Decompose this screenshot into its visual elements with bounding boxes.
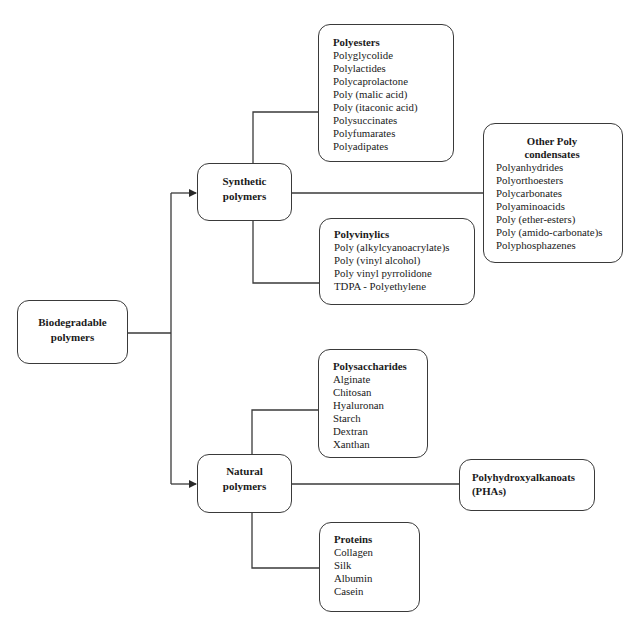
node-label-line1: Biodegradable [38,315,106,330]
list-item: Polycarbonates [496,187,622,200]
list-item: Polysuccinates [333,114,453,127]
node-title: Polyvinylics [334,228,474,241]
list-item: Polyadipates [333,140,453,153]
list-item: Albumin [334,572,419,585]
node-title-line1: Polyhydroxyalkanoats [472,470,594,484]
node-title-line2: condensates [496,148,622,161]
list-item: Polycaprolactone [333,75,453,88]
list-item: Polyglycolide [333,49,453,62]
list-item: Poly (itaconic acid) [333,101,453,114]
list-item: Polyphosphazenes [496,239,622,252]
node-title-line1: Other Poly [496,135,622,148]
list-item: Poly (malic acid) [333,88,453,101]
synthetic-polymers-node: Synthetic polymers [197,163,292,221]
other-poly-condensates-node: Other Poly condensates Polyanhydrides Po… [483,123,623,263]
node-title: Proteins [334,533,419,546]
node-label-line2: polymers [51,330,94,345]
list-item: Silk [334,559,419,572]
list-item: Casein [334,585,419,598]
list-item: Polylactides [333,62,453,75]
natural-polymers-node: Natural polymers [197,454,292,513]
list-item: Poly (amido-carbonate)s [496,226,622,239]
list-item: Alginate [333,373,427,386]
list-item: Poly (ether-esters) [496,213,622,226]
node-label-line1: Synthetic [223,174,267,189]
list-item: Xanthan [333,438,427,451]
node-title: Polyesters [333,36,453,49]
polyesters-node: Polyesters Polyglycolide Polylactides Po… [318,24,454,162]
list-item: Polyaminoacids [496,200,622,213]
node-label-line2: polymers [223,479,266,494]
biodegradable-polymers-node: Biodegradable polymers [17,300,128,364]
list-item: Polyfumarates [333,127,453,140]
list-item: Chitosan [333,386,427,399]
node-title-line2: (PHAs) [472,484,594,498]
list-item: Polyanhydrides [496,161,622,174]
list-item: Hyaluronan [333,399,427,412]
polysaccharides-node: Polysaccharides Alginate Chitosan Hyalur… [318,349,428,458]
list-item: Collagen [334,546,419,559]
list-item: Starch [333,412,427,425]
list-item: Poly vinyl pyrrolidone [334,267,474,280]
list-item: Poly (vinyl alcohol) [334,254,474,267]
node-label-line1: Natural [226,464,263,479]
node-title: Polysaccharides [333,360,427,373]
proteins-node: Proteins Collagen Silk Albumin Casein [319,522,420,612]
list-item: Dextran [333,425,427,438]
list-item: Polyorthoesters [496,174,622,187]
list-item: TDPA - Polyethylene [334,280,474,293]
list-item: Poly (alkylcyanoacrylate)s [334,241,474,254]
node-label-line2: polymers [223,189,266,204]
phas-node: Polyhydroxyalkanoats (PHAs) [459,459,595,511]
polyvinylics-node: Polyvinylics Poly (alkylcyanoacrylate)s … [319,218,475,305]
